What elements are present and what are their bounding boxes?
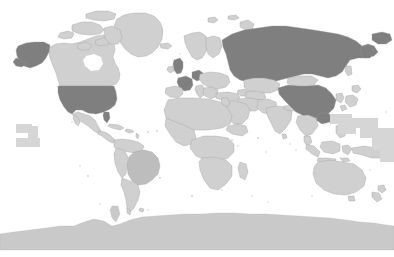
world-map-container bbox=[0, 0, 394, 257]
region-united-states bbox=[58, 86, 117, 114]
region-tasmania bbox=[348, 196, 355, 201]
world-map-svg bbox=[0, 0, 394, 257]
region-chukotka bbox=[372, 32, 392, 44]
region-kazakhstan bbox=[244, 78, 280, 93]
region-sri-lanka bbox=[282, 134, 287, 139]
